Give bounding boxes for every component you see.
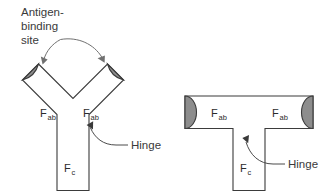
antigen-callout-leader-right [61,39,103,58]
antigen-callout-leader-left [44,40,61,60]
right-fc-label-sub: c [248,168,252,177]
antigen-binding-site-callout-text: Antigen- binding site [21,6,64,46]
right-antibody-group: F ab F ab F c Hinge [185,96,318,191]
right-fab-right-label-main: F [272,107,279,119]
antigen-callout-line3: site [21,34,39,46]
right-fab-right-label-sub: ab [280,113,288,122]
right-fc-label-main: F [240,162,247,174]
left-hinge-leader [91,128,129,145]
right-hinge-label: Hinge [288,158,318,170]
antigen-callout-line1: Antigen- [21,6,64,18]
left-fc-label-main: F [64,162,71,174]
left-fc-label-sub: c [72,168,76,177]
antibody-diagram-svg: F ab F ab F c Antigen- binding site [0,0,326,194]
right-fab-left-label-sub: ab [219,113,227,122]
left-fab-right-label-sub: ab [91,113,99,122]
left-hinge-label: Hinge [131,139,161,151]
left-fab-left-label-sub: ab [48,113,56,122]
left-fab-right-label-main: F [83,107,90,119]
left-antibody-group: F ab F ab F c Antigen- binding site [21,6,161,191]
antibody-figure-canvas: F ab F ab F c Antigen- binding site [0,0,326,194]
right-fab-left-label-main: F [211,107,218,119]
antigen-callout-line2: binding [21,20,58,32]
left-fab-left-label-main: F [40,107,47,119]
